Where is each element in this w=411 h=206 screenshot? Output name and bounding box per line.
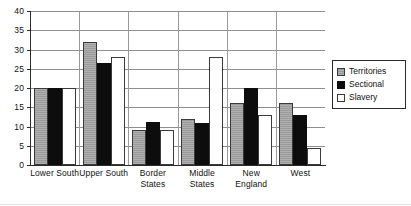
bar-group-inner — [178, 11, 227, 165]
bar-group-inner — [30, 11, 79, 165]
x-axis-label-line: Upper South — [79, 168, 128, 179]
legend-swatch-territories — [337, 68, 345, 76]
x-axis-label-line: States — [128, 179, 177, 190]
x-axis-label: Upper South — [79, 168, 128, 179]
group-separator — [178, 11, 179, 165]
y-tick-label-10: 10 — [0, 123, 24, 132]
bar-territories — [132, 130, 146, 165]
y-tick-mark-10 — [27, 127, 31, 128]
bar-slavery — [209, 57, 223, 165]
y-tick-mark-30 — [27, 50, 31, 51]
y-tick-label-40: 40 — [0, 7, 24, 16]
bar-sectional — [146, 122, 160, 166]
bar-group-inner — [227, 11, 276, 165]
y-tick-label-0: 0 — [0, 161, 24, 170]
bar-slavery — [160, 130, 174, 165]
bar-sectional — [97, 63, 111, 165]
y-tick-label-30: 30 — [0, 46, 24, 55]
bar-slavery — [111, 57, 125, 165]
legend-label: Slavery — [349, 93, 377, 102]
bar-chart: Lower SouthUpper SouthBorderStatesMiddle… — [0, 0, 411, 206]
y-tick-label-15: 15 — [0, 103, 24, 112]
bar-territories — [83, 42, 97, 165]
bar-group — [79, 11, 128, 165]
x-axis-label: New England — [227, 168, 276, 189]
bar-slavery — [62, 88, 76, 165]
legend-swatch-slavery — [337, 94, 345, 102]
x-axis-label-line: Middle — [178, 168, 227, 179]
x-axis-label: MiddleStates — [178, 168, 227, 189]
group-separator — [276, 11, 277, 165]
legend-item: Territories — [337, 65, 400, 78]
bar-territories — [34, 88, 48, 165]
legend-swatch-sectional — [337, 81, 345, 89]
y-tick-label-25: 25 — [0, 65, 24, 74]
x-axis-label-line: West — [276, 168, 325, 179]
bar-territories — [181, 119, 195, 165]
bar-group — [178, 11, 227, 165]
legend-item: Slavery — [337, 91, 400, 104]
bar-slavery — [307, 148, 321, 165]
chart-legend: TerritoriesSectionalSlavery — [332, 60, 406, 109]
bar-group — [30, 11, 79, 165]
bar-group — [128, 11, 177, 165]
bar-sectional — [293, 115, 307, 165]
x-axis-label-line: States — [178, 179, 227, 190]
y-tick-mark-15 — [27, 107, 31, 108]
bar-sectional — [195, 123, 209, 165]
legend-label: Sectional — [349, 80, 384, 89]
legend-label: Territories — [349, 67, 386, 76]
group-separator — [128, 11, 129, 165]
bar-territories — [279, 103, 293, 165]
bar-group — [276, 11, 325, 165]
y-tick-mark-20 — [27, 88, 31, 89]
y-tick-label-5: 5 — [0, 142, 24, 151]
x-axis-label: Lower South — [30, 168, 79, 179]
group-separator — [227, 11, 228, 165]
x-axis-label: West — [276, 168, 325, 179]
y-tick-label-20: 20 — [0, 84, 24, 93]
y-tick-mark-25 — [27, 69, 31, 70]
y-tick-mark-35 — [27, 30, 31, 31]
x-axis-label-line: New England — [227, 168, 276, 189]
bar-group-inner — [276, 11, 325, 165]
bar-group-inner — [79, 11, 128, 165]
y-tick-mark-0 — [27, 165, 31, 166]
y-tick-mark-40 — [27, 11, 31, 12]
bottom-divider — [0, 204, 411, 205]
bar-slavery — [258, 115, 272, 165]
x-axis-label-line: Border — [128, 168, 177, 179]
plot-area — [30, 11, 325, 165]
group-separator — [79, 11, 80, 165]
y-tick-label-35: 35 — [0, 26, 24, 35]
bar-group — [227, 11, 276, 165]
x-axis-label: BorderStates — [128, 168, 177, 189]
x-axis-line — [30, 165, 326, 166]
legend-item: Sectional — [337, 78, 400, 91]
bar-sectional — [244, 88, 258, 165]
bar-sectional — [48, 88, 62, 165]
bar-territories — [230, 103, 244, 165]
y-tick-mark-5 — [27, 146, 31, 147]
x-axis-label-line: Lower South — [30, 168, 79, 179]
bar-group-inner — [128, 11, 177, 165]
